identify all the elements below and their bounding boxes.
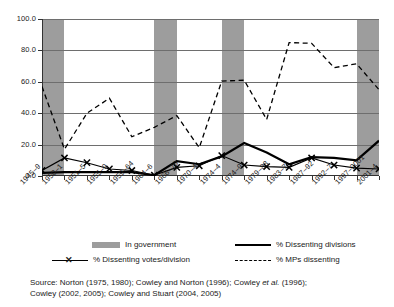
legend-item-mps-dissenting: % MPs dissenting [235,255,340,265]
source-note: Source: Norton (1975, 1980); Cowley and … [30,277,380,299]
source-line2: Cowley (2002, 2005); Cowley and Stuart (… [30,289,221,298]
data-series-lines [42,19,379,176]
source-prefix: Source: [30,278,58,287]
source-line1-italic: et al. [262,278,279,287]
source-line1-a: Norton (1975, 1980); Cowley and Norton (… [58,278,263,287]
legend-label-mps-dissenting: % MPs dissenting [276,255,340,265]
source-line1-b: (1996); [279,278,307,287]
plot-area [42,19,379,176]
legend-item-dissenting-votes-division: ✕ % Dissenting votes/division [52,255,190,265]
y-axis-tick-label: 20.0 [21,141,36,149]
legend-label-dissenting-divisions: % Dissenting divisions [276,240,356,250]
legend-label-in-government: In government [125,240,176,250]
legend-label-dissenting-votes-division: % Dissenting votes/division [93,255,190,265]
cross-marker-line-swatch-icon: ✕ [52,256,88,264]
y-axis-tick-label: 60.0 [21,78,36,86]
chart-legend: In government % Dissenting divisions ✕ %… [42,240,372,268]
legend-item-in-government: In government [92,240,176,250]
y-axis-tick-label: 80.0 [21,46,36,54]
dashed-line-swatch-icon [235,260,271,261]
x-axis-labels: 1945–91950–11951–51955–91959–641964–6196… [0,180,394,238]
y-axis-tick-label: 40.0 [21,109,36,117]
solid-line-swatch-icon [235,244,271,246]
y-axis-tick-label: 100.0 [17,15,36,23]
legend-item-dissenting-divisions: % Dissenting divisions [235,240,356,250]
series-line [42,43,379,150]
band-swatch-icon [92,242,120,248]
chart-figure: 0.020.040.060.080.0100.0 1945–91950–1195… [0,0,394,307]
